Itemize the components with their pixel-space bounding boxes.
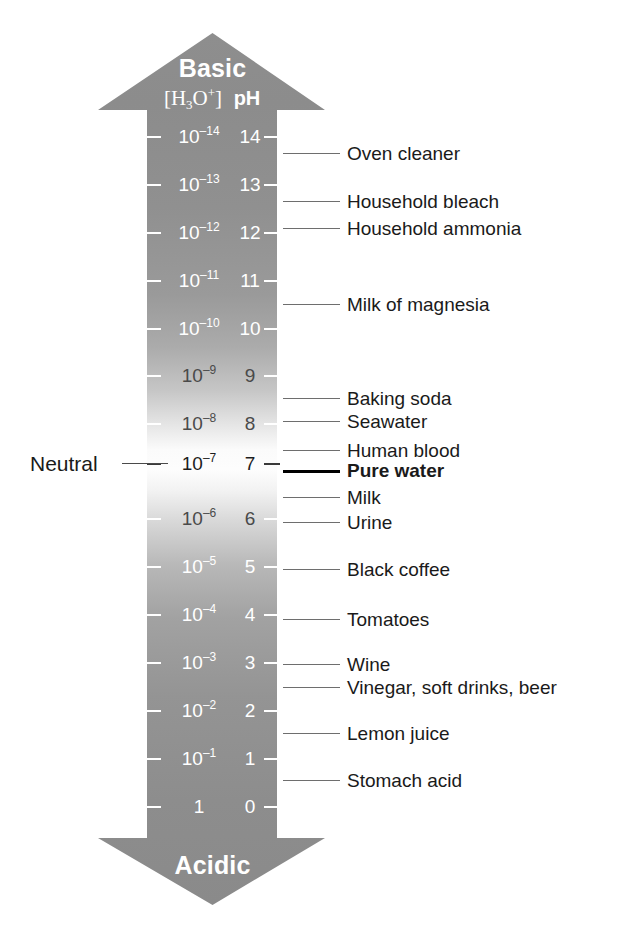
callout-label: Pure water	[347, 461, 444, 480]
tick-left-ph-14	[147, 136, 161, 138]
ph-value-8: 8	[234, 414, 266, 433]
leader-line	[283, 522, 340, 523]
concentration-exponent-ph-4: –4	[203, 602, 216, 616]
ph-value-4: 4	[234, 605, 266, 624]
ph-value-6: 6	[234, 509, 266, 528]
ph-value-13: 13	[234, 175, 266, 194]
callout-label: Milk	[347, 488, 381, 507]
header-ph: pH	[229, 88, 265, 108]
tick-right-ph-9	[264, 375, 280, 377]
tick-right-ph-5	[264, 566, 280, 568]
concentration-value-ph-9: 10–9	[160, 366, 238, 385]
tick-right-ph-0	[264, 806, 280, 808]
tick-right-ph-8	[264, 423, 280, 425]
leader-line	[283, 733, 340, 734]
callout-label: Lemon juice	[347, 724, 449, 743]
tick-left-ph-2	[147, 710, 161, 712]
concentration-value-ph-3: 10–3	[160, 653, 238, 672]
concentration-value-ph-0: 1	[160, 797, 238, 816]
concentration-value-ph-11: 10–11	[160, 271, 238, 290]
leader-line	[283, 664, 340, 665]
callout-label: Seawater	[347, 412, 427, 431]
tick-right-ph-4	[264, 614, 280, 616]
ph-value-14: 14	[234, 127, 266, 146]
caption-acidic: Acidic	[98, 853, 327, 878]
caption-basic: Basic	[98, 56, 327, 81]
concentration-exponent-ph-1: –1	[203, 746, 216, 760]
leader-line	[283, 421, 340, 422]
tick-right-ph-10	[264, 328, 280, 330]
concentration-exponent-ph-8: –8	[203, 411, 216, 425]
callout-label: Tomatoes	[347, 610, 429, 629]
leader-line	[283, 153, 340, 154]
ph-value-9: 9	[234, 366, 266, 385]
leader-line	[283, 450, 340, 451]
tick-right-ph-14	[264, 136, 280, 138]
tick-left-ph-8	[147, 423, 161, 425]
ph-value-10: 10	[234, 319, 266, 338]
concentration-value-ph-4: 10–4	[160, 605, 238, 624]
tick-left-ph-0	[147, 806, 161, 808]
concentration-exponent-ph-5: –5	[203, 554, 216, 568]
tick-right-ph-1	[264, 758, 280, 760]
callout-label: Human blood	[347, 441, 460, 460]
tick-left-ph-1	[147, 758, 161, 760]
concentration-exponent-ph-7: –7	[203, 451, 216, 465]
ph-value-1: 1	[234, 749, 266, 768]
ph-value-7: 7	[234, 454, 266, 473]
concentration-exponent-ph-14: –14	[200, 124, 220, 138]
tick-right-ph-11	[264, 280, 280, 282]
leader-line	[283, 201, 340, 202]
concentration-exponent-ph-3: –3	[203, 650, 216, 664]
leader-line	[283, 497, 340, 498]
concentration-value-ph-12: 10–12	[160, 223, 238, 242]
leader-line	[283, 470, 340, 473]
concentration-exponent-ph-11: –11	[200, 268, 219, 282]
leader-line	[283, 398, 340, 399]
callout-label: Household bleach	[347, 192, 499, 211]
tick-right-ph-3	[264, 662, 280, 664]
callout-label: Urine	[347, 513, 392, 532]
leader-line	[283, 619, 340, 620]
tick-right-ph-6	[264, 518, 280, 520]
ph-value-2: 2	[234, 701, 266, 720]
concentration-exponent-ph-10: –10	[200, 316, 220, 330]
leader-line	[283, 228, 340, 229]
callout-label: Black coffee	[347, 560, 450, 579]
tick-left-ph-9	[147, 375, 161, 377]
callout-label: Wine	[347, 655, 390, 674]
leader-line	[283, 304, 340, 305]
leader-line	[283, 780, 340, 781]
ph-scale-diagram: [H3O+] pH Basic Acidic 10–141410–131310–…	[0, 0, 629, 934]
tick-right-ph-7	[264, 463, 280, 465]
header-hydronium-concentration: [H3O+]	[151, 88, 235, 109]
concentration-value-ph-1: 10–1	[160, 749, 238, 768]
tick-left-ph-11	[147, 280, 161, 282]
concentration-value-ph-6: 10–6	[160, 509, 238, 528]
leader-line	[283, 687, 340, 688]
concentration-value-ph-5: 10–5	[160, 557, 238, 576]
callout-label: Vinegar, soft drinks, beer	[347, 678, 557, 697]
concentration-exponent-ph-9: –9	[203, 363, 216, 377]
callout-label: Baking soda	[347, 389, 452, 408]
leader-line	[283, 569, 340, 570]
tick-right-ph-12	[264, 232, 280, 234]
neutral-leader-line	[122, 463, 168, 464]
ph-value-5: 5	[234, 557, 266, 576]
concentration-value-ph-13: 10–13	[160, 175, 238, 194]
tick-left-ph-3	[147, 662, 161, 664]
callout-label: Oven cleaner	[347, 144, 460, 163]
concentration-exponent-ph-13: –13	[200, 172, 220, 186]
concentration-value-ph-8: 10–8	[160, 414, 238, 433]
tick-right-ph-13	[264, 184, 280, 186]
neutral-label: Neutral	[30, 453, 98, 474]
tick-left-ph-10	[147, 328, 161, 330]
tick-left-ph-4	[147, 614, 161, 616]
tick-left-ph-13	[147, 184, 161, 186]
concentration-exponent-ph-12: –12	[200, 220, 220, 234]
callout-label: Milk of magnesia	[347, 295, 490, 314]
concentration-value-ph-2: 10–2	[160, 701, 238, 720]
concentration-value-ph-7: 10–7	[160, 454, 238, 473]
ph-value-0: 0	[234, 797, 266, 816]
ph-value-3: 3	[234, 653, 266, 672]
